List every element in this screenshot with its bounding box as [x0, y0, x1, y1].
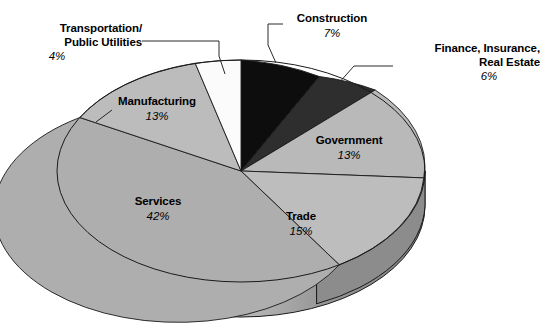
- label-construction: Construction 7%: [284, 12, 380, 40]
- label-services-line1: Services: [120, 195, 196, 209]
- label-finance-line1: Finance, Insurance,: [380, 42, 540, 56]
- label-government: Government 13%: [306, 134, 392, 162]
- leader-line-construction: [268, 24, 283, 63]
- label-trade-percent: 15%: [272, 224, 330, 238]
- label-manufacturing-line1: Manufacturing: [104, 95, 210, 109]
- label-transportation: Transportation/ Public Utilities 4%: [6, 22, 142, 63]
- label-manufacturing: Manufacturing 13%: [104, 95, 210, 123]
- label-construction-percent: 7%: [284, 26, 380, 40]
- label-finance-percent: 6%: [380, 69, 540, 83]
- label-manufacturing-percent: 13%: [104, 109, 210, 123]
- label-trade-line1: Trade: [272, 210, 330, 224]
- label-trade: Trade 15%: [272, 210, 330, 238]
- label-services: Services 42%: [120, 195, 196, 223]
- label-construction-line1: Construction: [284, 12, 380, 26]
- label-finance: Finance, Insurance, Real Estate 6%: [380, 42, 540, 83]
- label-transportation-line1: Transportation/: [6, 22, 142, 36]
- label-services-percent: 42%: [120, 209, 196, 223]
- label-government-percent: 13%: [306, 148, 392, 162]
- label-finance-line2: Real Estate: [380, 56, 540, 70]
- label-transportation-line2: Public Utilities: [6, 36, 142, 50]
- pie-chart-figure: Transportation/ Public Utilities 4% Manu…: [0, 0, 546, 333]
- label-government-line1: Government: [306, 134, 392, 148]
- label-transportation-percent: 4%: [6, 49, 142, 63]
